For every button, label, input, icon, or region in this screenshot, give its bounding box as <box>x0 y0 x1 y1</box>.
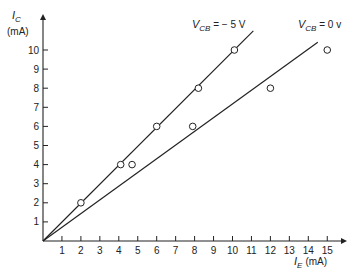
y-axis-label: IC <box>12 9 21 24</box>
y-tick-label: 1 <box>33 216 39 227</box>
x-tick-label: 15 <box>322 245 334 256</box>
series-label-0v: VCB = 0 v <box>298 18 341 33</box>
x-tick-label: 2 <box>78 245 84 256</box>
y-tick-label: 5 <box>33 140 39 151</box>
x-tick-label: 6 <box>154 245 160 256</box>
ic-vs-ie-chart: 12345678910111213141512345678910 IC (mA)… <box>0 0 353 274</box>
x-tick-label: 8 <box>192 245 198 256</box>
data-point <box>324 47 331 54</box>
x-tick-label: 10 <box>227 245 239 256</box>
x-tick-label: 4 <box>116 245 122 256</box>
data-point <box>153 123 160 130</box>
x-tick-label: 14 <box>303 245 315 256</box>
y-tick-label: 4 <box>33 159 39 170</box>
x-axis-label: IE(mA) <box>294 255 327 270</box>
data-point <box>78 200 85 207</box>
x-tick-label: 7 <box>173 245 179 256</box>
y-tick-label: 7 <box>33 102 39 113</box>
data-point <box>267 85 274 92</box>
x-tick-label: 1 <box>59 245 65 256</box>
y-tick-label: 3 <box>33 178 39 189</box>
x-tick-label: 11 <box>246 245 257 256</box>
x-tick-label: 9 <box>211 245 217 256</box>
series-label-minus5v: VCB = − 5 V <box>192 18 246 33</box>
x-axis-arrow-icon <box>341 238 347 244</box>
data-points <box>78 47 331 206</box>
y-tick-label: 2 <box>33 197 39 208</box>
y-axis-arrow-icon <box>40 14 46 20</box>
data-point <box>129 161 136 168</box>
fit-line <box>43 31 253 241</box>
ticks: 12345678910111213141512345678910 <box>28 45 333 257</box>
x-tick-label: 5 <box>135 245 141 256</box>
y-tick-label: 6 <box>33 121 39 132</box>
fit-line <box>43 42 318 241</box>
x-tick-label: 12 <box>265 245 277 256</box>
data-point <box>195 85 202 92</box>
y-axis-unit: (mA) <box>7 26 29 37</box>
y-tick-label: 10 <box>28 45 40 56</box>
data-point <box>117 161 124 168</box>
fit-lines <box>43 31 318 241</box>
data-point <box>189 123 196 130</box>
data-point <box>231 47 238 54</box>
x-tick-label: 3 <box>97 245 103 256</box>
y-tick-label: 9 <box>33 64 39 75</box>
y-tick-label: 8 <box>33 83 39 94</box>
